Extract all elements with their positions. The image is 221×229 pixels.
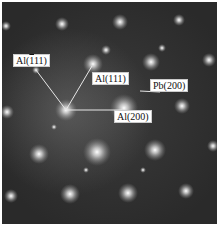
diffraction-spots [2,2,217,224]
diffraction-pattern-image: Al(111) Al(111) Pb(200) Al(200) [2,2,217,224]
label-al-200: Al(200) [114,110,152,123]
label-al-111: Al(111) [92,72,129,85]
label-al-bar-111: Al(111) [13,54,50,67]
label-pb-200: Pb(200) [150,79,188,92]
spots [2,14,217,204]
